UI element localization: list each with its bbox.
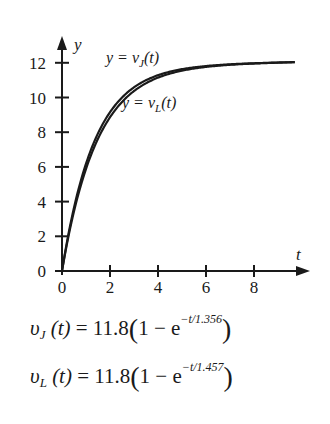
eq-exponent: −t/1.457 xyxy=(182,360,224,374)
x-tick-label: 0 xyxy=(58,278,67,297)
x-axis-label: t xyxy=(296,245,302,264)
eq-open-paren: ( xyxy=(130,361,139,392)
eq-subscript: L xyxy=(40,375,47,390)
curves xyxy=(62,62,295,271)
eq-symbol: υ xyxy=(30,364,40,388)
equation-j: υJ (t) = 11.8(1 − e−t/1.356) xyxy=(30,312,231,345)
x-tick-label: 4 xyxy=(154,278,163,297)
y-tick-label: 0 xyxy=(38,262,47,281)
y-axis-label: y xyxy=(72,35,82,54)
equation-l: υL (t) = 11.8(1 − e−t/1.457) xyxy=(30,360,233,393)
y-tick-label: 6 xyxy=(38,158,47,177)
x-axis-arrow-icon xyxy=(296,266,310,276)
x-tick-label: 2 xyxy=(106,278,115,297)
eq-arg: (t) xyxy=(51,316,71,340)
eq-exponent: −t/1.356 xyxy=(180,312,222,326)
eq-close-paren: ) xyxy=(224,361,233,392)
y-tick-label: 8 xyxy=(38,123,47,142)
eq-arg: (t) xyxy=(52,364,72,388)
curve-vj xyxy=(62,62,295,271)
y-tick-label: 2 xyxy=(38,227,47,246)
eq-body: 1 − e xyxy=(138,316,180,340)
x-tick-label: 8 xyxy=(250,278,259,297)
eq-close-paren: ) xyxy=(222,313,231,344)
curve-l-label: y = vL(t) xyxy=(120,94,176,114)
eq-coeff: = 11.8 xyxy=(72,364,130,388)
eq-open-paren: ( xyxy=(129,313,138,344)
x-ticks: 02468 xyxy=(58,265,259,297)
eq-coeff: = 11.8 xyxy=(71,316,129,340)
eq-symbol: υ xyxy=(30,316,40,340)
chart: 02468 024681012 y t y = vJ(t) y = vL(t) xyxy=(0,0,330,300)
eq-subscript: J xyxy=(40,327,46,342)
y-tick-label: 4 xyxy=(38,193,47,212)
axes xyxy=(57,36,310,276)
y-tick-label: 12 xyxy=(29,54,46,73)
y-tick-label: 10 xyxy=(29,89,46,108)
curve-j-label: y = vJ(t) xyxy=(104,49,159,69)
y-axis-arrow-icon xyxy=(57,36,67,50)
curve-vl xyxy=(62,62,295,271)
eq-body: 1 − e xyxy=(140,364,182,388)
x-tick-label: 6 xyxy=(202,278,211,297)
